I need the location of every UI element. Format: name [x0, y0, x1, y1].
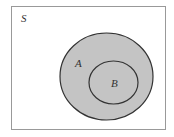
universe-label: S — [21, 12, 27, 24]
venn-diagram: S A B — [0, 0, 174, 137]
set-a-label: A — [74, 57, 82, 69]
set-b-label: B — [111, 77, 118, 89]
